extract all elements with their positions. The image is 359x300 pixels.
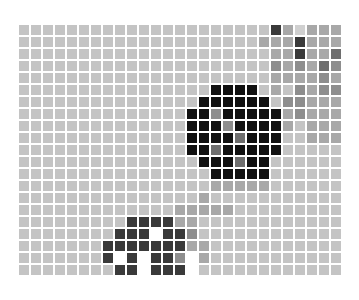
grid-cell: [223, 85, 233, 95]
grid-cell: [103, 49, 113, 59]
grid-cell: [187, 37, 197, 47]
grid-cell: [175, 157, 185, 167]
grid-cell: [259, 169, 269, 179]
grid-cell: [19, 193, 29, 203]
grid-cell: [271, 109, 281, 119]
grid-cell: [223, 97, 233, 107]
grid-cell: [283, 265, 293, 275]
grid-cell: [307, 121, 317, 131]
grid-cell: [103, 61, 113, 71]
grid-cell: [19, 169, 29, 179]
caption: ~~~ ~~~~: [20, 0, 76, 4]
grid-cell: [235, 85, 245, 95]
grid-cell: [91, 133, 101, 143]
grid-cell: [223, 37, 233, 47]
grid-cell: [211, 61, 221, 71]
grid-cell: [235, 73, 245, 83]
grid-cell: [31, 49, 41, 59]
grid-cell: [115, 25, 125, 35]
grid-cell: [31, 157, 41, 167]
grid-cell: [19, 73, 29, 83]
grid-cell: [127, 193, 137, 203]
grid-cell: [79, 109, 89, 119]
grid-cell: [319, 169, 329, 179]
grid-cell: [247, 73, 257, 83]
grid-cell: [187, 133, 197, 143]
grid-cell: [43, 181, 53, 191]
grid-cell: [67, 217, 77, 227]
grid-cell: [19, 25, 29, 35]
grid-cell: [31, 193, 41, 203]
grid-cell: [247, 61, 257, 71]
grid-cell: [319, 25, 329, 35]
grid-cell: [67, 229, 77, 239]
grid-cell: [67, 61, 77, 71]
grid-cell: [331, 253, 341, 263]
grid-cell: [55, 145, 65, 155]
grid-cell: [271, 49, 281, 59]
grid-cell: [103, 169, 113, 179]
grid-cell: [235, 265, 245, 275]
grid-cell: [199, 85, 209, 95]
grid-cell: [259, 49, 269, 59]
grid-cell: [127, 25, 137, 35]
grid-cell: [115, 217, 125, 227]
grid-cell: [331, 49, 341, 59]
grid-cell: [175, 205, 185, 215]
grid-cell: [223, 145, 233, 155]
grid-cell: [151, 25, 161, 35]
grid-cell: [271, 193, 281, 203]
grid-cell: [247, 121, 257, 131]
grid-cell: [307, 133, 317, 143]
grid-cell: [103, 25, 113, 35]
pixel-grid: [19, 25, 341, 275]
grid-cell: [151, 145, 161, 155]
grid-cell: [247, 241, 257, 251]
grid-cell: [199, 265, 209, 275]
grid-cell: [151, 217, 161, 227]
grid-cell: [295, 85, 305, 95]
grid-cell: [307, 97, 317, 107]
grid-cell: [115, 205, 125, 215]
grid-cell: [211, 157, 221, 167]
grid-cell: [331, 181, 341, 191]
grid-cell: [139, 37, 149, 47]
grid-cell: [31, 205, 41, 215]
grid-cell: [31, 25, 41, 35]
grid-cell: [295, 253, 305, 263]
grid-cell: [283, 169, 293, 179]
grid-cell: [139, 121, 149, 131]
grid-cell: [139, 229, 149, 239]
grid-cell: [199, 253, 209, 263]
grid-cell: [67, 97, 77, 107]
grid-cell: [187, 145, 197, 155]
grid-cell: [199, 229, 209, 239]
grid-cell: [91, 61, 101, 71]
grid-cell: [19, 37, 29, 47]
grid-cell: [211, 97, 221, 107]
grid-cell: [91, 37, 101, 47]
grid-cell: [319, 241, 329, 251]
grid-cell: [283, 109, 293, 119]
grid-cell: [91, 229, 101, 239]
grid-cell: [283, 133, 293, 143]
grid-cell: [283, 217, 293, 227]
grid-cell: [151, 265, 161, 275]
grid-cell: [223, 25, 233, 35]
grid-cell: [175, 97, 185, 107]
grid-cell: [127, 145, 137, 155]
grid-cell: [271, 181, 281, 191]
grid-cell: [211, 133, 221, 143]
grid-cell: [43, 193, 53, 203]
grid-cell: [295, 169, 305, 179]
grid-cell: [19, 157, 29, 167]
grid-cell: [55, 241, 65, 251]
grid-cell: [43, 133, 53, 143]
grid-cell: [199, 205, 209, 215]
grid-cell: [199, 217, 209, 227]
grid-cell: [295, 229, 305, 239]
grid-cell: [247, 217, 257, 227]
grid-cell: [163, 121, 173, 131]
grid-cell: [163, 133, 173, 143]
grid-cell: [235, 109, 245, 119]
